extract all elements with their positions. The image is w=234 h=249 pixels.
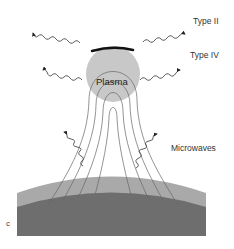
label-type-iv: Type IV <box>190 51 219 60</box>
wave-arrow-type-iv <box>140 70 180 80</box>
wave-arrow-type-ii <box>143 33 185 42</box>
panel-label: c <box>6 220 10 228</box>
diagram-canvas <box>0 0 234 249</box>
wave-arrow-upper-left-2 <box>43 69 82 80</box>
plasma-blob <box>86 46 140 102</box>
wave-arrow-upper-left-1 <box>33 33 80 43</box>
label-microwaves: Microwaves <box>171 144 216 153</box>
solar-surface <box>17 177 206 237</box>
label-plasma: Plasma <box>96 77 128 87</box>
label-type-ii: Type II <box>193 17 219 26</box>
